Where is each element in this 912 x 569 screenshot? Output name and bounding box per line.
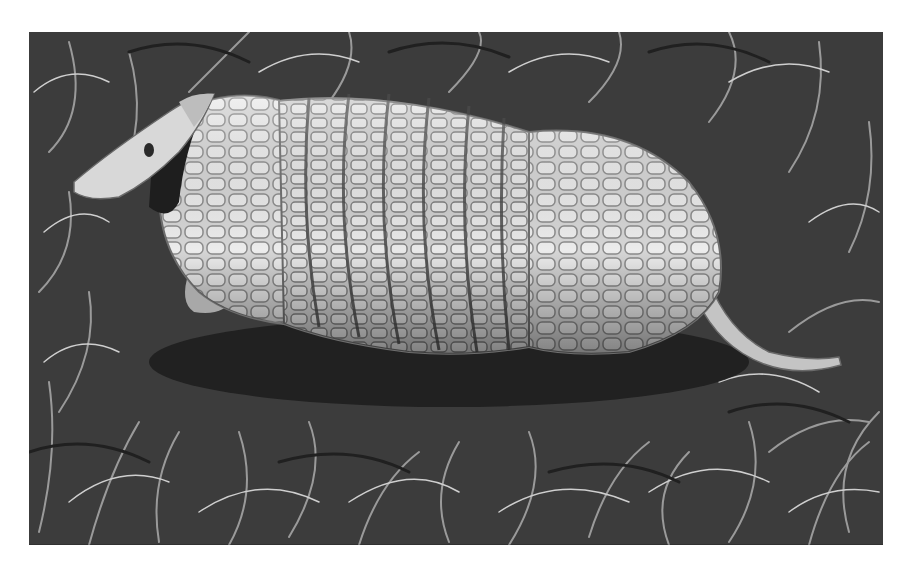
armadillo-illustration: [29, 32, 883, 545]
armadillo-photo: Armadillo in grass: [29, 32, 883, 545]
